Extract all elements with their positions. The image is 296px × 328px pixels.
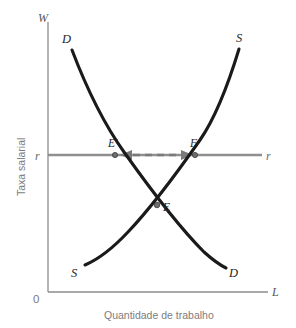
y-axis-letter: W: [38, 11, 49, 25]
point-e-marker: [154, 202, 160, 208]
point-e-label: E: [162, 201, 170, 213]
wage-tick-left-label: r: [35, 149, 40, 163]
demand-curve-top-label: D: [61, 32, 71, 46]
point-e-prime-label: E': [107, 137, 118, 149]
point-e-prime-marker: [112, 152, 117, 157]
x-axis-letter: L: [271, 285, 279, 299]
supply-curve-top-label: S: [236, 31, 243, 45]
point-f-label: F: [189, 137, 198, 149]
economics-labor-market-chart: W L 0 r r D S S D E' F E Taxa salarial Q…: [0, 0, 296, 328]
x-axis-title: Quantidade de trabalho: [104, 309, 214, 321]
y-axis-title: Taxa salarial: [15, 138, 27, 196]
origin-label: 0: [33, 293, 39, 305]
chart-background: [0, 0, 296, 328]
supply-curve-bottom-label: S: [71, 266, 78, 280]
wage-tick-right-label: r: [266, 149, 271, 163]
demand-curve-bottom-label: D: [228, 266, 238, 280]
point-f-marker: [192, 152, 197, 157]
